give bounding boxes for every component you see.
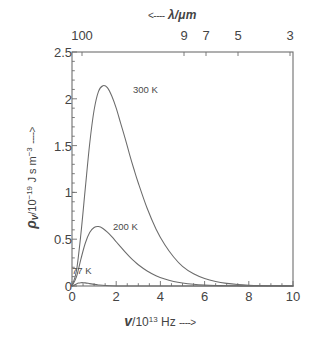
axes-frame bbox=[72, 52, 293, 286]
x-tick-8: 8 bbox=[245, 290, 252, 303]
y-axis-arrow: ----> bbox=[27, 127, 38, 144]
y-axis-units: J s m bbox=[26, 156, 38, 182]
x-tick-2: 2 bbox=[113, 290, 120, 303]
x-axis-mantissa: /10 bbox=[132, 315, 149, 329]
axis-ticks bbox=[72, 52, 293, 286]
y-axis-mantissa: /10 bbox=[26, 200, 38, 215]
data-curves bbox=[72, 85, 293, 286]
lambda-units: /μm bbox=[175, 8, 197, 22]
secondary-x-tick-7-2: 7 bbox=[202, 29, 209, 42]
secondary-x-axis-arrow: <---- bbox=[148, 10, 165, 21]
curve-label-300k: 300 K bbox=[133, 85, 158, 95]
rho-subscript: v bbox=[29, 215, 40, 221]
y-tick-2.5: 2.5 bbox=[54, 46, 72, 59]
x-tick-10: 10 bbox=[286, 290, 300, 303]
y-axis-title: ρv/10−19 J s m−3 ----> bbox=[24, 98, 40, 258]
secondary-x-axis-title: <---- λ/μm bbox=[148, 9, 197, 21]
y-tick-0.5: 0.5 bbox=[54, 233, 72, 246]
blackbody-spectral-density-chart: <---- λ/μm 1009753 2.521.510.50 ρv/10−19… bbox=[0, 0, 320, 339]
rho-symbol: ρ bbox=[23, 220, 39, 228]
secondary-x-tick-100-0: 100 bbox=[71, 29, 93, 42]
curve-label-77k: 77 K bbox=[72, 266, 92, 276]
curve-label-200k: 200 K bbox=[113, 222, 138, 232]
y-tick-2: 2 bbox=[65, 92, 72, 105]
secondary-x-tick-5-3: 5 bbox=[234, 29, 241, 42]
x-axis-exponent: 13 bbox=[149, 315, 158, 324]
secondary-x-tick-9-1: 9 bbox=[180, 29, 187, 42]
x-tick-4: 4 bbox=[157, 290, 164, 303]
secondary-x-tick-3-4: 3 bbox=[286, 29, 293, 42]
y-axis-units-exponent: −3 bbox=[25, 147, 34, 156]
y-tick-1.5: 1.5 bbox=[54, 139, 72, 152]
x-axis-title: v/1013 Hz ----> bbox=[0, 314, 320, 328]
lambda-symbol: λ bbox=[168, 8, 175, 22]
nu-symbol: v bbox=[124, 313, 132, 329]
x-axis-arrow: ----> bbox=[179, 317, 196, 328]
y-axis-exponent: −19 bbox=[25, 186, 34, 200]
y-tick-1: 1 bbox=[65, 186, 72, 199]
x-tick-0: 0 bbox=[68, 290, 75, 303]
x-tick-6: 6 bbox=[201, 290, 208, 303]
x-axis-units: Hz bbox=[161, 315, 176, 329]
